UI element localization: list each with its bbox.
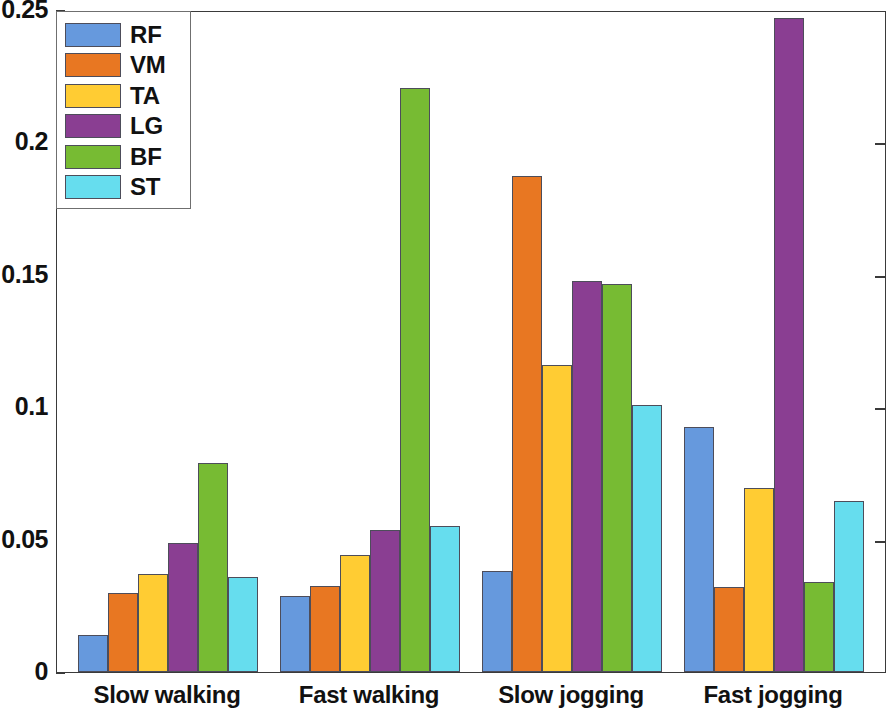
legend-item-lg[interactable]: LG xyxy=(65,113,163,140)
legend-label: BF xyxy=(130,145,162,169)
legend-item-st[interactable]: ST xyxy=(65,174,160,201)
legend-item-rf[interactable]: RF xyxy=(65,21,162,48)
bar-bf-fast-walking xyxy=(400,88,430,672)
bar-rf-fast-jogging xyxy=(684,427,714,672)
bar-vm-fast-jogging xyxy=(714,587,744,672)
legend-label: ST xyxy=(130,175,160,199)
x-axis-group-label: Fast walking xyxy=(299,681,439,709)
legend-item-bf[interactable]: BF xyxy=(65,143,162,170)
x-axis-group-label: Slow walking xyxy=(93,681,240,709)
bar-st-slow-jogging xyxy=(632,405,662,672)
bar-ta-slow-walking xyxy=(138,574,168,673)
legend-swatch-st xyxy=(65,175,121,199)
bar-lg-slow-jogging xyxy=(572,281,602,672)
bar-lg-slow-walking xyxy=(168,543,198,672)
bar-vm-slow-walking xyxy=(108,593,138,672)
y-axis-tick-label: 0.1 xyxy=(15,392,48,421)
bar-lg-fast-jogging xyxy=(774,18,804,672)
x-axis-group-label: Fast jogging xyxy=(703,681,842,709)
legend-label: VM xyxy=(130,53,166,77)
legend-label: LG xyxy=(130,114,163,138)
legend-swatch-bf xyxy=(65,145,121,169)
bar-vm-slow-jogging xyxy=(512,176,542,672)
bar-vm-fast-walking xyxy=(310,586,340,672)
bar-st-fast-walking xyxy=(430,526,460,672)
bar-lg-fast-walking xyxy=(370,530,400,672)
bar-bf-slow-walking xyxy=(198,463,228,672)
legend-swatch-ta xyxy=(65,84,121,108)
bar-bf-fast-jogging xyxy=(804,582,834,672)
y-axis-tick-label: 0.15 xyxy=(1,260,48,289)
legend-label: RF xyxy=(130,23,162,47)
chart-legend: RFVMTALGBFST xyxy=(56,11,191,209)
y-axis-tick-label: 0 xyxy=(35,657,48,686)
bar-rf-slow-walking xyxy=(78,635,108,672)
bar-st-slow-walking xyxy=(228,577,258,672)
bar-ta-fast-walking xyxy=(340,555,370,672)
bar-ta-fast-jogging xyxy=(744,488,774,672)
legend-item-ta[interactable]: TA xyxy=(65,82,160,109)
y-axis-tick-label: 0.2 xyxy=(15,127,48,156)
bar-st-fast-jogging xyxy=(834,501,864,672)
legend-item-vm[interactable]: VM xyxy=(65,52,166,79)
legend-label: TA xyxy=(130,84,160,108)
legend-swatch-vm xyxy=(65,53,121,77)
legend-swatch-lg xyxy=(65,114,121,138)
bar-ta-slow-jogging xyxy=(542,365,572,672)
bar-bf-slow-jogging xyxy=(602,284,632,672)
x-axis-group-label: Slow jogging xyxy=(498,681,644,709)
bar-rf-fast-walking xyxy=(280,596,310,672)
bar-rf-slow-jogging xyxy=(482,571,512,672)
legend-swatch-rf xyxy=(65,23,121,47)
y-axis-tick-label: 0.25 xyxy=(1,0,48,24)
y-axis-tick-label: 0.05 xyxy=(1,525,48,554)
